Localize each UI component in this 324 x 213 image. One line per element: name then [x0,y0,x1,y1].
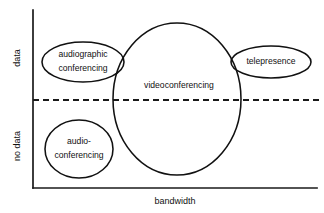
bubble-label-audiographic-conferencing-line1: audiographic [58,49,108,59]
bubble-label-telepresence: telepresence [246,56,295,66]
bubble-label-audio-conferencing-line2: conferencing [54,150,103,160]
diagram-canvas: data no data bandwidth audiographic conf… [0,0,324,213]
diagram-svg: data no data bandwidth audiographic conf… [0,0,324,213]
y-axis-label-data: data [12,49,22,67]
y-axis-label-no-data: no data [12,131,22,161]
x-axis-label-bandwidth: bandwidth [154,196,195,206]
bubble-label-audio-conferencing-line1: audio- [67,136,91,146]
bubble-audio-conferencing [45,120,113,178]
bubble-label-audiographic-conferencing-line2: conferencing [58,63,107,73]
bubble-videoconferencing [113,23,241,175]
bubble-audiographic-conferencing [42,42,124,82]
bubble-label-videoconferencing: videoconferencing [144,80,214,90]
